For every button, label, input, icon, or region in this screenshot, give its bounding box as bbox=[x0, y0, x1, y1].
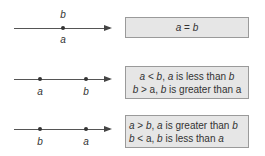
relation-text: a = b bbox=[126, 21, 248, 34]
operator: > bbox=[135, 120, 146, 131]
number-line bbox=[14, 79, 110, 80]
description: is greater than bbox=[163, 120, 232, 131]
description: is less than bbox=[163, 133, 219, 144]
point-dot bbox=[61, 26, 65, 30]
point-label-b: b bbox=[80, 87, 92, 97]
point-dot bbox=[38, 127, 42, 131]
point-dot bbox=[84, 77, 88, 81]
relation-line-1: a > b, a is greater than b bbox=[129, 119, 248, 132]
number-line bbox=[14, 129, 110, 130]
description: is greater than a bbox=[166, 84, 241, 95]
point-label-b: b bbox=[34, 137, 46, 147]
var: b bbox=[232, 120, 238, 131]
point-label-a: a bbox=[57, 35, 69, 45]
arrow-right-icon bbox=[104, 25, 112, 31]
operator: > a, bbox=[138, 84, 161, 95]
relation-line-2: b < a, b is less than a bbox=[129, 132, 248, 145]
relation-line-1: a < b, a is less than b bbox=[126, 70, 248, 83]
point-dot bbox=[38, 77, 42, 81]
relation-box-greater: a > b, a is greater than b b < a, b is l… bbox=[125, 115, 249, 148]
operator: = bbox=[181, 22, 192, 33]
point-label-b: b bbox=[57, 10, 69, 20]
operator: < a, bbox=[135, 133, 158, 144]
arrow-right-icon bbox=[104, 126, 112, 132]
relation-line-2: b > a, b is greater than a bbox=[126, 83, 248, 96]
arrow-right-icon bbox=[104, 76, 112, 82]
var: b bbox=[229, 71, 235, 82]
operator: < bbox=[145, 71, 156, 82]
point-dot bbox=[84, 127, 88, 131]
var: b bbox=[193, 22, 199, 33]
var: a bbox=[218, 133, 224, 144]
point-label-a: a bbox=[80, 137, 92, 147]
relation-box-equal: a = b bbox=[125, 17, 249, 38]
point-label-a: a bbox=[34, 87, 46, 97]
relation-box-less: a < b, a is less than b b > a, b is grea… bbox=[125, 66, 249, 99]
description: is less than bbox=[173, 71, 229, 82]
